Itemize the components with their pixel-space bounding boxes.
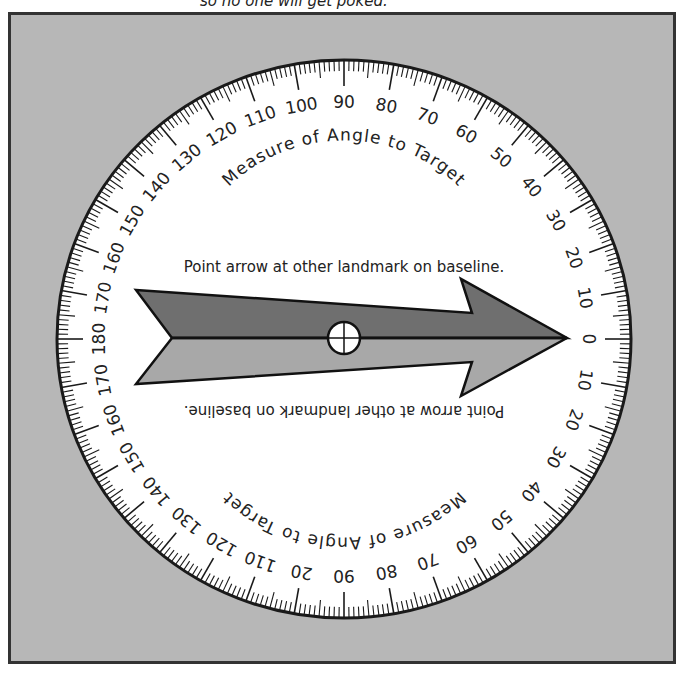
degree-label: 80	[374, 94, 399, 117]
protractor-dial: 0102030405060708090100110120130140150160…	[0, 0, 686, 674]
degree-label: 0	[579, 334, 599, 345]
pivot-crosshair-icon[interactable]	[328, 322, 360, 354]
instruction-top: Point arrow at other landmark on baselin…	[184, 258, 505, 276]
degree-label: 10	[574, 368, 597, 393]
degree-label: 90	[333, 566, 355, 586]
degree-label: 10	[574, 285, 597, 310]
degree-label: 20	[289, 561, 314, 584]
degree-label: 180	[89, 323, 109, 355]
degree-label: 80	[374, 561, 399, 584]
degree-label: 90	[333, 92, 355, 112]
instruction-bottom: Point arrow at other landmark on baselin…	[184, 402, 505, 420]
